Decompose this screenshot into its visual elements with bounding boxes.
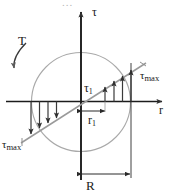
tau-max-upper-right-label: τmax [140,70,159,83]
shear-stress-axis-label: τ [92,6,97,18]
diagram-canvas [0,0,173,195]
tau-max-lower-left-subscript: max [6,142,21,152]
r1-label: r1 [88,114,96,128]
torque-label: T [18,34,26,47]
outer-radius-label: R [86,179,95,192]
r1-dimension [82,102,105,113]
radius-axis-label: r [159,104,163,116]
clipped-top-text: ... [62,0,73,8]
tau-max-upper-right-subscript: max [144,73,159,83]
tau1-subscript: 1 [89,87,93,96]
tau1-label: τ1 [84,82,93,96]
r1-subscript: 1 [92,119,96,128]
tau-max-lower-left-label: τmax [2,139,21,152]
shear-stress-diagram: ... τ r T τ1 r1 R τmax τmax [0,0,173,195]
